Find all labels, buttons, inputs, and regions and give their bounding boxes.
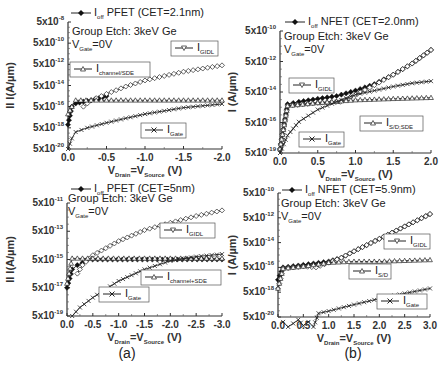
x-tick-label: -2.0 xyxy=(213,152,231,163)
y-tick-label: 5x10-10 xyxy=(33,36,65,48)
x-tick-label: 1.5 xyxy=(347,320,361,331)
legend-title: Ioff PFET (CET=2.1nm) xyxy=(94,6,204,20)
x-tick-label: 0.0 xyxy=(273,156,287,167)
annotation: Group Etch: 3keV GeVGate=0V xyxy=(68,192,173,219)
svg-text:Group Etch: 3keV Ge: Group Etch: 3keV Ge xyxy=(284,30,389,42)
legend-box: IGIDL xyxy=(160,223,215,238)
y-tick-label: 5x10-14 xyxy=(33,79,65,91)
legend-title: Ioff NFET (CET=5.9nm) xyxy=(305,183,416,197)
chart-panel-top-right: 5x10-105x10-125x10-145x10-165x10-190.00.… xyxy=(226,24,438,182)
x-tick-label: 1.0 xyxy=(322,320,336,331)
y-tick-label: 5x10-16 xyxy=(33,100,65,112)
y-tick-label: 5x10-19 xyxy=(245,146,277,158)
series-i-gidl xyxy=(75,208,225,276)
legend-box: IGate xyxy=(141,123,186,138)
svg-text:Group Etch: 3keV Ge: Group Etch: 3keV Ge xyxy=(68,192,173,204)
series-i-channel-sde xyxy=(66,98,225,116)
y-tick-label: 5x10-17 xyxy=(32,281,64,293)
y-tick-label: 5x10-10 xyxy=(245,24,277,36)
y-tick-label: 5x10-13 xyxy=(32,224,64,236)
panel-label-a: (a) xyxy=(118,345,135,361)
x-tick-label: 2.5 xyxy=(398,320,412,331)
x-tick-label: -1.0 xyxy=(110,319,128,330)
x-tick-label: -0.5 xyxy=(84,319,102,330)
legend-box: Ichannel+SDE xyxy=(141,270,221,285)
x-axis-label: VDrain=VSource (V) xyxy=(107,331,182,345)
x-tick-label: 0.5 xyxy=(311,156,325,167)
legend-box: IS/D xyxy=(349,264,391,279)
legend-box: IGIDL xyxy=(171,41,218,56)
series-i-off xyxy=(65,93,109,127)
y-tick-label: 5x10-16 xyxy=(243,260,275,272)
legend-box: IGIDL xyxy=(384,234,430,249)
annotation: Group Etch: 3keV GeVGate=0V xyxy=(281,197,386,224)
x-tick-label: -3.0 xyxy=(213,319,231,330)
y-tick-label: 5x10-8 xyxy=(36,15,64,27)
figure: 5x10-85x10-105x10-125x10-145x10-165x10-1… xyxy=(0,0,448,375)
y-tick-label: 5x10-18 xyxy=(243,285,275,297)
y-tick-label: 5x10-15 xyxy=(32,253,64,265)
y-tick-label: 5x10-12 xyxy=(33,57,65,69)
svg-text:VGate=0V: VGate=0V xyxy=(68,205,109,219)
chart-panel-bottom-right: 5x10-105x10-125x10-145x10-165x10-185x10-… xyxy=(226,186,437,346)
x-axis-label: VDrain=VSource (V) xyxy=(317,332,392,346)
legend-box: IGate xyxy=(99,287,149,302)
legend-ioff: Ioff PFET (CET=2.1nm) xyxy=(71,6,204,20)
legend-box: IS/D;SDE xyxy=(360,116,423,131)
x-tick-label: 3.0 xyxy=(423,320,437,331)
legend-ioff: Ioff NFET (CET=2.0nm) xyxy=(285,15,419,29)
annotation: Group Etch: 3keV GeVGate=0V xyxy=(284,30,389,57)
y-axis-label: II I(A/µm) xyxy=(4,236,16,283)
svg-text:VGate=0V: VGate=0V xyxy=(284,43,325,57)
chart-panel-top-left: 5x10-85x10-105x10-125x10-145x10-165x10-1… xyxy=(4,15,231,178)
y-tick-label: 5x10-20 xyxy=(33,142,65,154)
panel-label-b: (b) xyxy=(344,345,361,361)
y-tick-label: 5x10-14 xyxy=(243,236,275,248)
x-tick-label: -1.0 xyxy=(136,152,154,163)
x-tick-label: 1.0 xyxy=(349,156,363,167)
x-tick-label: 1.5 xyxy=(386,156,400,167)
x-axis-label: VDrain=VSource (V) xyxy=(318,168,393,182)
svg-text:Group Etch: 3keV Ge: Group Etch: 3keV Ge xyxy=(281,197,386,209)
svg-text:VGate=0V: VGate=0V xyxy=(72,38,113,52)
legend-ioff: Ioff NFET (CET=5.9nm) xyxy=(282,183,416,197)
y-axis-label: II I(A/µm) xyxy=(4,62,16,109)
y-tick-label: 5x10-16 xyxy=(245,116,277,128)
x-tick-label: 0.0 xyxy=(60,319,74,330)
x-tick-label: 0.0 xyxy=(61,152,75,163)
x-tick-label: -1.5 xyxy=(175,152,193,163)
legend-title: Ioff NFET (CET=2.0nm) xyxy=(308,15,419,29)
y-tick-label: 5x10-18 xyxy=(33,121,65,133)
x-tick-label: 2.0 xyxy=(372,320,386,331)
svg-text:Group Etch: 3keV Ge: Group Etch: 3keV Ge xyxy=(72,25,177,37)
y-axis-label: I (A/µm) xyxy=(226,71,238,112)
x-tick-label: -0.5 xyxy=(98,152,116,163)
x-tick-label: -1.5 xyxy=(136,319,154,330)
y-axis-label: I (A/µm) xyxy=(226,234,238,275)
y-tick-label: 5x10-11 xyxy=(32,196,63,208)
legend-box: IGate xyxy=(377,294,427,309)
y-tick-label: 5x10-19 xyxy=(32,309,64,321)
legend-box: IGIDL xyxy=(289,78,334,93)
legend-box: IGate xyxy=(299,132,344,147)
y-tick-label: 5x10-14 xyxy=(245,85,277,97)
x-tick-label: -2.5 xyxy=(188,319,206,330)
x-tick-label: -2.0 xyxy=(162,319,180,330)
y-tick-label: 5x10-12 xyxy=(243,211,275,223)
y-tick-label: 5x10-20 xyxy=(243,310,275,322)
annotation: Group Etch: 3keV GeVGate=0V xyxy=(72,25,177,52)
x-tick-label: 2.0 xyxy=(424,156,438,167)
y-tick-label: 5x10-12 xyxy=(245,55,277,67)
legend-box: Ichannel/SDE xyxy=(70,62,150,77)
svg-text:VGate=0V: VGate=0V xyxy=(281,210,322,224)
y-tick-label: 5x10-10 xyxy=(243,186,275,198)
x-axis-label: VDrain=VSource (V) xyxy=(108,164,183,178)
